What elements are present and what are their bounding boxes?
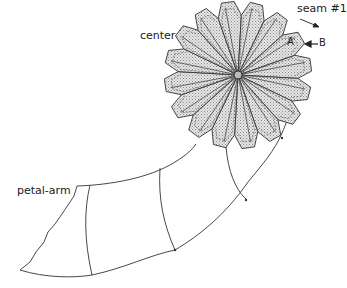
rosette-center <box>164 1 311 148</box>
arm-outer-edge <box>77 144 196 186</box>
arm-seam-1 <box>86 185 92 275</box>
arm-seam-dot-3 <box>281 137 283 139</box>
arm-seam-dot-2 <box>245 199 247 201</box>
arm-seam-2 <box>160 168 175 250</box>
rosette-hub <box>234 71 242 79</box>
point-b-label: B <box>319 38 326 48</box>
point-a-label: A <box>287 37 294 47</box>
arm-seam-3 <box>226 147 247 200</box>
petal-arm-label: petal-arm <box>17 185 71 196</box>
center-label: center <box>140 30 175 41</box>
arm-tip-edge <box>20 186 77 270</box>
arm-seam-dot-1 <box>174 249 176 251</box>
point-b-arrow-icon <box>305 41 318 47</box>
seam-label: seam #1 <box>297 3 347 14</box>
seam-arrow-icon <box>300 19 319 27</box>
